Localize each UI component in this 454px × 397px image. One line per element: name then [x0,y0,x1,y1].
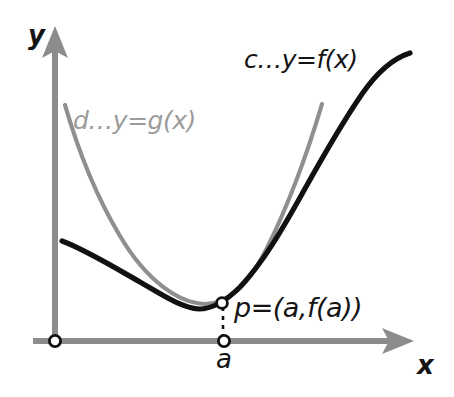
diagram-svg [0,0,454,397]
curve-g-label: d…y=g(x) [73,108,196,133]
tick-a-label: a [216,346,232,372]
y-axis-label: y [28,22,45,48]
origin-marker-icon [49,335,60,346]
point-p-marker-icon [217,298,228,309]
curve-f-path [62,53,410,309]
diagram-canvas: y x c…y=f(x) d…y=g(x) p=(a,f(a)) a [0,0,454,397]
point-p-label: p=(a,f(a)) [234,294,362,321]
x-axis-label: x [417,352,434,378]
curve-f-label: c…y=f(x) [244,47,358,72]
